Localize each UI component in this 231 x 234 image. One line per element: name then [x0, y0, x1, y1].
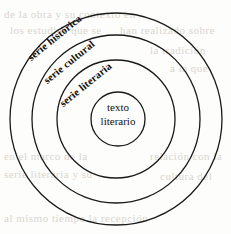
center-label-texto-literario: texto literario [92, 100, 144, 128]
center-label-line-1: texto [92, 100, 144, 114]
concentric-circles-diagram: de la obra y su contexto en los estudios… [0, 0, 231, 234]
center-label-line-2: literario [92, 114, 144, 128]
